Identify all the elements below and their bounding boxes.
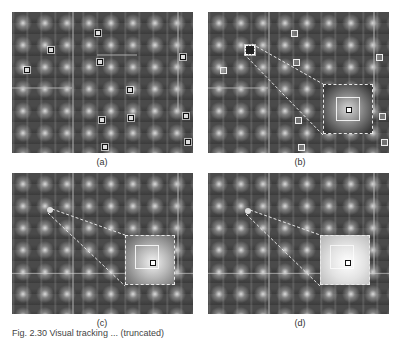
panel-d-label: (d) <box>280 318 320 328</box>
keypoint-marker <box>183 113 189 119</box>
panel-b-label: (b) <box>280 157 320 167</box>
panel-d-image <box>208 173 389 314</box>
panel-b-image <box>208 12 389 153</box>
panel-a-label: (a) <box>82 157 122 167</box>
panel-c-image <box>12 173 193 314</box>
keypoint-marker <box>381 139 388 146</box>
selected-keypoint <box>245 45 255 55</box>
target-point <box>150 260 156 266</box>
keypoint-marker <box>102 144 108 150</box>
magnified-inset <box>125 235 175 285</box>
keypoint-marker <box>220 67 227 74</box>
keypoint-marker <box>376 54 383 61</box>
keypoint-marker <box>128 115 134 121</box>
keypoint-marker <box>379 113 386 120</box>
keypoint-marker <box>99 117 105 123</box>
keypoint-marker <box>24 67 30 73</box>
keypoint-marker <box>185 139 191 145</box>
keypoint-marker <box>180 54 186 60</box>
magnified-inset <box>320 235 370 285</box>
keypoint-marker <box>291 30 298 37</box>
keypoint-marker <box>293 59 300 66</box>
keypoint-marker <box>298 144 305 151</box>
keypoint-marker <box>97 59 103 65</box>
keypoint-marker <box>127 87 133 93</box>
panel-a-image <box>12 12 193 153</box>
magnified-inset <box>323 84 373 134</box>
keypoint-marker <box>295 117 302 124</box>
target-point <box>346 107 352 113</box>
target-point <box>345 260 351 266</box>
keypoint-marker <box>48 47 54 53</box>
figure-caption: Fig. 2.30 Visual tracking ... (truncated… <box>12 328 164 338</box>
keypoint-marker <box>95 30 101 36</box>
panel-c-label: (c) <box>82 318 122 328</box>
